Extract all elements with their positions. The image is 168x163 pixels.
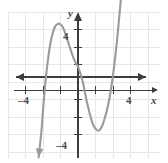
x-axis-left-arrowhead bbox=[16, 73, 24, 81]
x-axis-right-arrowhead bbox=[152, 87, 158, 93]
cubic-curve bbox=[39, 0, 122, 158]
y-axis bbox=[74, 12, 82, 158]
x-axis-right-arrowhead-main bbox=[138, 73, 146, 81]
coordinate-graph-figure: 4 –4 –4 4 y x bbox=[0, 0, 168, 163]
cubic-curve-group bbox=[36, 0, 125, 158]
y-axis-top-arrowhead bbox=[74, 12, 82, 21]
graph-canvas bbox=[0, 0, 168, 163]
